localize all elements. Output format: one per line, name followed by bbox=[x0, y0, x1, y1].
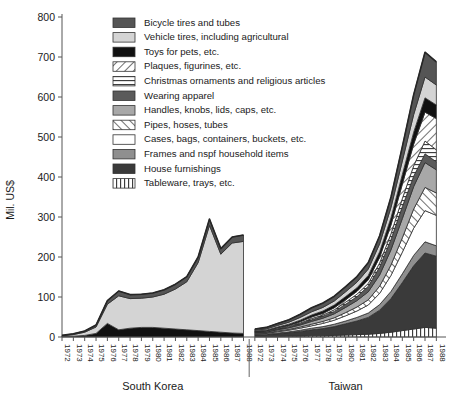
x-axis: 1972197319741975197619771978197919801981… bbox=[62, 337, 447, 392]
legend-swatch-solid-mid-gray-swatch bbox=[113, 106, 135, 116]
x-tick-label: 1985 bbox=[404, 344, 413, 362]
x-tick-label: 1976 bbox=[109, 344, 118, 362]
x-tick-label: 1986 bbox=[415, 344, 424, 362]
x-tick-label: 1979 bbox=[143, 344, 152, 362]
x-tick-label: 1982 bbox=[177, 344, 186, 362]
x-tick-label: 1978 bbox=[324, 344, 333, 362]
y-tick-label: 200 bbox=[37, 251, 55, 263]
x-tick-label: 1980 bbox=[347, 344, 356, 362]
x-tick-label: 1981 bbox=[358, 344, 367, 362]
legend-swatch-solid-light-gray-swatch bbox=[113, 33, 135, 43]
y-tick-label: 400 bbox=[37, 171, 55, 183]
legend-swatch-horizontal-lines-swatch bbox=[113, 76, 135, 86]
x-tick-label: 1988 bbox=[438, 344, 447, 362]
legend-label: Bicycle tires and tubes bbox=[144, 17, 240, 28]
legend-label: Tableware, trays, etc. bbox=[144, 177, 235, 188]
legend-label: Christmas ornaments and religious articl… bbox=[144, 75, 325, 86]
x-tick-label: 1974 bbox=[86, 344, 95, 362]
x-tick-label: 1986 bbox=[222, 344, 231, 362]
y-axis: 0100200300400500600700800 bbox=[37, 11, 62, 343]
legend-swatch-solid-mid-gray-swatch bbox=[113, 149, 135, 159]
legend-label: House furnishings bbox=[144, 163, 221, 174]
group-label-taiwan: Taiwan bbox=[328, 380, 362, 392]
y-tick-label: 100 bbox=[37, 291, 55, 303]
legend-swatch-solid-dark-gray-swatch bbox=[113, 18, 135, 28]
legend-label: Plaques, figurines, etc. bbox=[144, 60, 241, 71]
x-tick-label: 1977 bbox=[313, 344, 322, 362]
x-tick-label: 1985 bbox=[211, 344, 220, 362]
x-tick-label: 1975 bbox=[97, 344, 106, 362]
legend-label: Toys for pets, etc. bbox=[144, 46, 219, 57]
x-tick-label: 1974 bbox=[279, 344, 288, 362]
legend-label: Pipes, hoses, tubes bbox=[144, 119, 228, 130]
y-tick-label: 600 bbox=[37, 91, 55, 103]
group-label-south-korea: South Korea bbox=[122, 380, 184, 392]
x-tick-label: 1982 bbox=[369, 344, 378, 362]
chart-legend: Bicycle tires and tubesVehicle tires, in… bbox=[113, 17, 325, 189]
x-tick-label: 1972 bbox=[63, 344, 72, 362]
y-tick-label: 500 bbox=[37, 131, 55, 143]
x-tick-label: 1987 bbox=[233, 344, 242, 362]
x-tick-label: 1978 bbox=[131, 344, 140, 362]
y-tick-label: 300 bbox=[37, 211, 55, 223]
x-tick-label: 1984 bbox=[392, 344, 401, 362]
stacked-area-chart: 0100200300400500600700800 19721973197419… bbox=[0, 0, 451, 394]
x-tick-label: 1977 bbox=[120, 344, 129, 362]
legend-label: Vehicle tires, including agricultural bbox=[144, 31, 289, 42]
y-tick-label: 800 bbox=[37, 11, 55, 23]
x-tick-label: 1983 bbox=[381, 344, 390, 362]
x-tick-label: 1973 bbox=[267, 344, 276, 362]
legend-swatch-white-swatch bbox=[113, 135, 135, 145]
legend-label: Handles, knobs, lids, caps, etc. bbox=[144, 104, 276, 115]
legend-label: Frames and nspf household items bbox=[144, 148, 289, 159]
y-axis-label: Mil. US$ bbox=[4, 180, 16, 220]
x-tick-label: 1976 bbox=[301, 344, 310, 362]
x-tick-label: 1983 bbox=[188, 344, 197, 362]
chart-root: 0100200300400500600700800 19721973197419… bbox=[0, 0, 451, 394]
legend-swatch-solid-black-swatch bbox=[113, 47, 135, 57]
legend-label: Wearing apparel bbox=[144, 90, 214, 101]
legend-swatch-hatch-back-swatch bbox=[113, 120, 135, 130]
x-tick-label: 1972 bbox=[256, 344, 265, 362]
legend-label: Cases, bags, containers, buckets, etc. bbox=[144, 133, 306, 144]
legend-swatch-solid-dark-gray-swatch bbox=[113, 91, 135, 101]
legend-swatch-hatch-forward-swatch bbox=[113, 62, 135, 72]
x-tick-label: 1981 bbox=[165, 344, 174, 362]
x-tick-label: 1975 bbox=[290, 344, 299, 362]
y-tick-label: 700 bbox=[37, 51, 55, 63]
x-tick-label: 1980 bbox=[154, 344, 163, 362]
legend-swatch-solid-dark-swatch bbox=[113, 164, 135, 174]
legend-swatch-vertical-lines-swatch bbox=[113, 179, 135, 189]
x-tick-label: 1987 bbox=[426, 344, 435, 362]
x-tick-label: 1984 bbox=[199, 344, 208, 362]
x-tick-label: 1973 bbox=[75, 344, 84, 362]
x-tick-label: 1979 bbox=[335, 344, 344, 362]
y-tick-label: 0 bbox=[49, 331, 55, 343]
